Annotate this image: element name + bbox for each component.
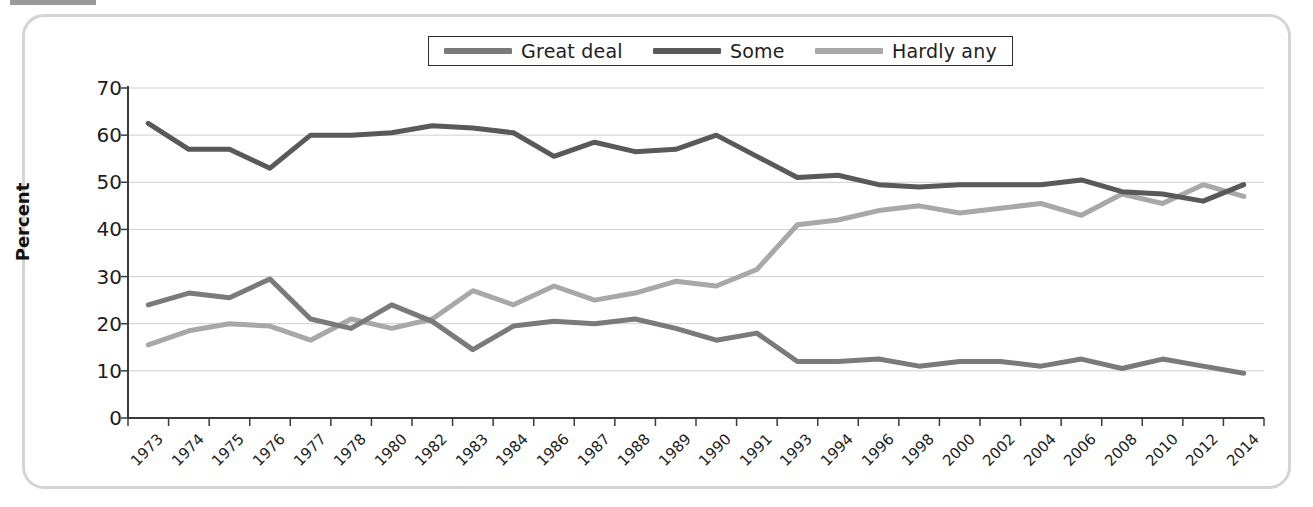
chart-legend: Great deal Some Hardly any: [428, 36, 1013, 66]
series-line-great-deal: [148, 279, 1243, 373]
legend-label-great-deal: Great deal: [521, 40, 623, 62]
legend-item-hardly-any[interactable]: Hardly any: [815, 40, 997, 62]
legend-swatch-great-deal: [444, 48, 512, 54]
legend-label-hardly-any: Hardly any: [892, 40, 997, 62]
plot-canvas: [0, 0, 1313, 507]
legend-swatch-hardly-any: [815, 48, 883, 54]
legend-item-some[interactable]: Some: [653, 40, 785, 62]
line-chart: Percent 010203040506070 1973197419751976…: [0, 0, 1313, 507]
legend-item-great-deal[interactable]: Great deal: [444, 40, 623, 62]
legend-swatch-some: [653, 48, 721, 54]
legend-label-some: Some: [730, 40, 785, 62]
